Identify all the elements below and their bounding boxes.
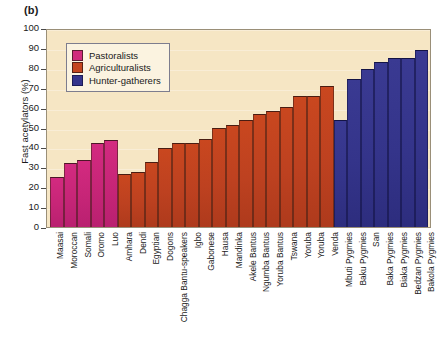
bar[interactable] xyxy=(131,172,145,227)
x-axis-tick: Mbuti Pygmies xyxy=(335,230,349,354)
x-axis-tick: Bakola Pygmies xyxy=(417,230,431,354)
y-axis-tick-label: 90 xyxy=(28,42,39,53)
bar[interactable] xyxy=(64,163,78,227)
bar[interactable] xyxy=(401,58,415,227)
x-axis-tick: Baka Pygmies xyxy=(376,230,390,354)
y-axis-tick-label: 50 xyxy=(28,122,39,133)
bar[interactable] xyxy=(266,111,280,227)
bar[interactable] xyxy=(104,140,118,227)
y-axis-tick-label: 30 xyxy=(28,161,39,172)
bar[interactable] xyxy=(334,120,348,227)
y-axis-tick-label: 60 xyxy=(28,102,39,113)
bar[interactable] xyxy=(158,148,172,227)
x-axis-tick: Akele Bantus xyxy=(239,230,253,354)
x-axis-tick: Yoruba xyxy=(294,230,308,354)
x-axis-tick: Yoruba xyxy=(307,230,321,354)
y-axis-tick-label: 70 xyxy=(28,82,39,93)
y-axis-tick-label: 100 xyxy=(23,22,39,33)
panel-label: (b) xyxy=(24,4,39,16)
x-axis-tick: Mandinka xyxy=(225,230,239,354)
bar[interactable] xyxy=(145,162,159,227)
y-axis-tick-label: 10 xyxy=(28,201,39,212)
x-axis-tick: Luo xyxy=(101,230,115,354)
legend-item-label: Hunter-gatherers xyxy=(89,75,161,86)
bar[interactable] xyxy=(361,69,375,227)
bar[interactable] xyxy=(415,50,429,227)
legend-swatch xyxy=(72,75,83,86)
x-axis-tick: Dendi xyxy=(129,230,143,354)
legend-swatch xyxy=(72,50,83,61)
x-axis-tick-label: Bakola Pygmies xyxy=(427,232,435,292)
bar[interactable] xyxy=(347,79,361,227)
y-axis-tick-mark xyxy=(41,228,46,229)
x-axis-tick: Moroccan xyxy=(60,230,74,354)
x-axis-tick: Somali xyxy=(74,230,88,354)
x-axis-tick: Igbo xyxy=(184,230,198,354)
bar[interactable] xyxy=(118,174,132,227)
bar[interactable] xyxy=(226,125,240,227)
bar[interactable] xyxy=(293,96,307,227)
legend-item[interactable]: Agriculturalists xyxy=(72,62,161,73)
x-axis-tick: Biaka Pygmies xyxy=(390,230,404,354)
bar[interactable] xyxy=(212,128,226,228)
x-axis-tick: Oromo xyxy=(87,230,101,354)
bar[interactable] xyxy=(320,86,334,227)
x-axis-tick: Dogons xyxy=(156,230,170,354)
x-axis-tick: Yoruba Bantus xyxy=(266,230,280,354)
x-axis-tick: Chagga Bantu-speakers xyxy=(170,230,184,354)
bar[interactable] xyxy=(388,58,402,227)
y-axis-tick-label: 40 xyxy=(28,141,39,152)
y-axis-tick-label: 0 xyxy=(34,221,39,232)
bar[interactable] xyxy=(77,160,91,227)
y-axis-tick-label: 20 xyxy=(28,181,39,192)
legend: PastoralistsAgriculturalistsHunter-gathe… xyxy=(66,43,170,92)
legend-item-label: Agriculturalists xyxy=(89,62,151,73)
bar[interactable] xyxy=(172,143,186,227)
x-axis-tick: Egyptian xyxy=(142,230,156,354)
y-axis-tick-label: 80 xyxy=(28,62,39,73)
legend-item[interactable]: Hunter-gatherers xyxy=(72,75,161,86)
bar[interactable] xyxy=(50,177,64,227)
legend-swatch xyxy=(72,62,83,73)
x-axis-tick: San xyxy=(362,230,376,354)
x-axis-tick: Venda xyxy=(321,230,335,354)
x-axis-labels: MaasaiMoroccanSomaliOromoLuoAmharaDendiE… xyxy=(46,230,431,354)
x-axis-tick: Bedzan Pygmies xyxy=(404,230,418,354)
y-axis: 0102030405060708090100 xyxy=(0,29,46,228)
x-axis-tick: Amhara xyxy=(115,230,129,354)
x-axis-tick: Gabonese xyxy=(197,230,211,354)
bar[interactable] xyxy=(239,120,253,227)
bar[interactable] xyxy=(253,114,267,227)
legend-item-label: Pastoralists xyxy=(89,50,138,61)
bar[interactable] xyxy=(185,143,199,227)
legend-item[interactable]: Pastoralists xyxy=(72,50,161,61)
x-axis-tick: Hausa xyxy=(211,230,225,354)
x-axis-tick: Ngumba Bantus xyxy=(252,230,266,354)
bar[interactable] xyxy=(91,143,105,227)
x-axis-tick: Maasai xyxy=(46,230,60,354)
bar[interactable] xyxy=(280,107,294,227)
figure-panel-b: (b) Fast acetylators (%) 010203040506070… xyxy=(0,0,447,356)
bar[interactable] xyxy=(307,96,321,227)
bar[interactable] xyxy=(374,62,388,227)
x-axis-tick: Tswana xyxy=(280,230,294,354)
x-axis-tick: Baku Pygmies xyxy=(349,230,363,354)
bar[interactable] xyxy=(199,139,213,227)
